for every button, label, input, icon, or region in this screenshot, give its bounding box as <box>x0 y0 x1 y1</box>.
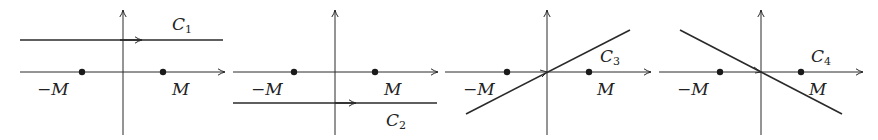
label-neg-m: −M <box>677 81 709 98</box>
point-pos-m <box>372 69 378 75</box>
point-pos-m <box>586 69 592 75</box>
label-pos-m: M <box>384 81 401 98</box>
label-neg-m: −M <box>37 81 69 98</box>
panel-4 <box>659 10 863 135</box>
contour-label-c4: C4 <box>811 48 831 67</box>
label-neg-m: −M <box>251 81 283 98</box>
panel-1 <box>20 10 225 135</box>
point-pos-m <box>160 69 166 75</box>
contour-diagrams <box>0 0 878 140</box>
point-neg-m <box>504 69 510 75</box>
panel-3 <box>445 10 651 135</box>
point-neg-m <box>717 69 723 75</box>
contour-label-c2: C2 <box>386 112 406 131</box>
contour-label-c1: C1 <box>172 16 192 35</box>
point-neg-m <box>79 69 85 75</box>
contour-label-c3: C3 <box>600 48 620 67</box>
point-pos-m <box>798 69 804 75</box>
label-pos-m: M <box>809 81 826 98</box>
label-neg-m: −M <box>463 81 495 98</box>
point-neg-m <box>291 69 297 75</box>
label-pos-m: M <box>172 81 189 98</box>
panel-2 <box>233 10 438 135</box>
label-pos-m: M <box>597 81 614 98</box>
